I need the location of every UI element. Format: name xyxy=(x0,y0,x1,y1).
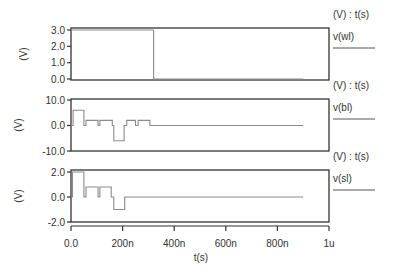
legend-label: v(wl) xyxy=(333,31,354,42)
x-tick-label: 600n xyxy=(215,238,237,249)
legend-label: v(sl) xyxy=(333,173,352,184)
y-axis-title: (V) xyxy=(18,47,29,60)
x-axis-title: t(s) xyxy=(194,252,208,263)
legend-header: (V) : t(s) xyxy=(333,9,369,20)
y-tick-label: 0.0 xyxy=(51,120,65,131)
x-tick-label: 400n xyxy=(163,238,185,249)
legend-label: v(bl) xyxy=(333,102,352,113)
x-tick-label: 200n xyxy=(111,238,133,249)
plot-frame xyxy=(71,28,329,80)
series-line-vwl xyxy=(71,30,303,79)
y-tick-label: 0.0 xyxy=(51,74,65,85)
y-tick-label: 2.0 xyxy=(51,167,65,178)
y-tick-label: -2.0 xyxy=(48,217,66,228)
y-tick-label: -10.0 xyxy=(42,146,65,157)
y-tick-label: 2.0 xyxy=(51,41,65,52)
x-tick-label: 800n xyxy=(266,238,288,249)
y-tick-label: 1.0 xyxy=(51,57,65,68)
panel-vbl: -10.00.010.0(V)(V) : t(s)v(bl) xyxy=(13,80,375,157)
x-tick-label: 0.0 xyxy=(64,238,78,249)
x-axis: 0.0200n400n600n800n1u xyxy=(64,226,335,249)
legend-header: (V) : t(s) xyxy=(333,151,369,162)
panel-vsl: -2.00.02.0(V)(V) : t(s)v(sl) xyxy=(13,151,375,228)
waveform-chart: 0.01.02.03.0(V)(V) : t(s)v(wl)-10.00.010… xyxy=(0,0,399,275)
plot-frame xyxy=(71,170,329,222)
y-axis-title: (V) xyxy=(13,189,24,202)
y-axis-title: (V) xyxy=(13,118,24,131)
y-tick-label: 3.0 xyxy=(51,25,65,36)
series-line-vsl xyxy=(71,172,303,210)
legend-header: (V) : t(s) xyxy=(333,80,369,91)
x-tick-label: 1u xyxy=(323,238,334,249)
y-tick-label: 0.0 xyxy=(51,192,65,203)
panel-vwl: 0.01.02.03.0(V)(V) : t(s)v(wl) xyxy=(18,9,375,85)
y-tick-label: 10.0 xyxy=(46,95,66,106)
series-line-vbl xyxy=(71,110,303,141)
